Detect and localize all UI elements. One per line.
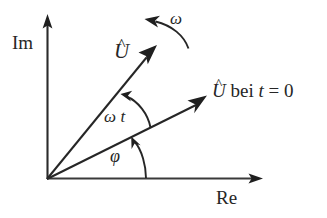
vector-u-hat-t0-label: U ^ bei t = 0 [212, 81, 293, 100]
u-hat-accent: ^ [117, 36, 125, 53]
omega-t-label: ω t [104, 108, 125, 125]
u-hat-t0-bei-word: bei [230, 80, 253, 101]
vector-u-hat-label: U ^ [114, 41, 129, 62]
phasor-diagram-canvas [0, 0, 327, 218]
vectors-group [47, 45, 207, 179]
angle-arc-omega-t-arrowhead [121, 91, 133, 102]
u-hat-t0-glyph: U ^ [212, 81, 226, 100]
vector-u-hat-t0-arrowhead [188, 96, 208, 114]
vector-u-hat-t0 [47, 96, 207, 180]
angle-arc-omega-t-path [127, 97, 151, 128]
u-hat-t0-time-var: t [258, 80, 263, 101]
real-axis [47, 174, 263, 184]
imaginary-axis [43, 14, 53, 179]
imaginary-axis-label: Im [12, 33, 33, 52]
angle-arc-phi [131, 137, 146, 179]
real-axis-label: Re [216, 188, 237, 207]
u-hat-t0-time-value: 0 [284, 80, 294, 101]
u-hat-t0-accent: ^ [215, 76, 222, 92]
phi-label: φ [110, 147, 120, 165]
angle-arc-phi-path [135, 142, 147, 179]
omega-t-omega-symbol: ω [104, 107, 116, 126]
phasor-diagram: Im Re U ^ ω ω t φ U ^ bei t = 0 [0, 0, 327, 218]
omega-t-time-symbol: t [121, 107, 126, 126]
u-hat-t0-equals-sign: = [268, 80, 279, 101]
vector-u-hat [47, 45, 157, 179]
u-hat-glyph: U ^ [114, 41, 129, 62]
vector-u-hat-shaft [47, 58, 147, 180]
omega-label: ω [170, 10, 182, 27]
vector-u-hat-arrowhead [139, 45, 158, 64]
